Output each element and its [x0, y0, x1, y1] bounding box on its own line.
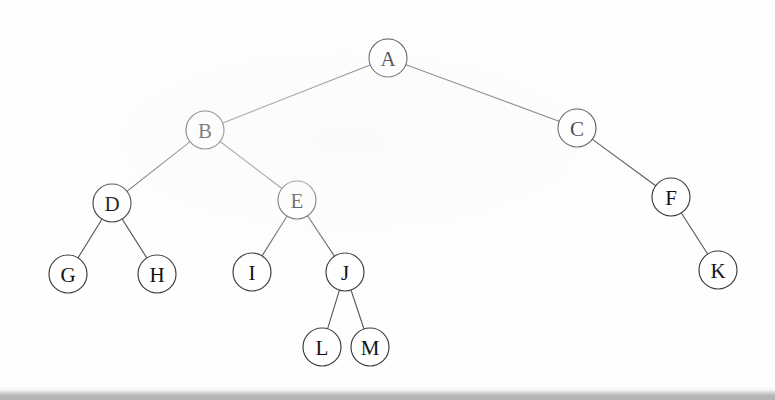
tree-edge-d-g [78, 219, 103, 259]
tree-node-i[interactable]: I [233, 253, 271, 291]
node-label-b: B [198, 119, 212, 143]
tree-canvas: ABCDEFGHIJKLM [0, 0, 775, 400]
tree-edge-e-i [262, 216, 287, 257]
tree-node-a[interactable]: A [369, 39, 407, 77]
tree-node-e[interactable]: E [278, 181, 316, 219]
node-label-h: H [149, 263, 164, 287]
tree-node-m[interactable]: M [351, 328, 389, 366]
edge-layer [78, 64, 708, 329]
node-label-i: I [249, 261, 256, 285]
node-label-e: E [291, 189, 304, 213]
tree-node-l[interactable]: L [303, 328, 341, 366]
tree-node-h[interactable]: H [138, 255, 176, 293]
tree-node-c[interactable]: C [558, 109, 596, 147]
node-label-k: K [710, 259, 725, 283]
tree-edge-f-k [681, 213, 708, 255]
tree-edge-e-j [307, 215, 334, 256]
tree-edge-j-l [327, 290, 339, 330]
tree-edge-a-c [405, 64, 559, 121]
tree-node-b[interactable]: B [186, 111, 224, 149]
node-label-m: M [361, 336, 380, 360]
node-label-a: A [380, 47, 396, 71]
tree-node-d[interactable]: D [93, 184, 131, 222]
node-layer: ABCDEFGHIJKLM [49, 39, 737, 366]
node-label-c: C [570, 117, 584, 141]
tree-diagram-figure: ABCDEFGHIJKLM [0, 0, 775, 400]
tree-node-j[interactable]: J [326, 253, 364, 291]
page-bottom-edge-line [0, 396, 775, 400]
tree-edge-j-m [351, 290, 364, 330]
tree-node-g[interactable]: G [49, 255, 87, 293]
tree-node-k[interactable]: K [699, 251, 737, 289]
tree-edge-c-f [592, 139, 656, 186]
node-label-l: L [316, 336, 329, 360]
tree-edge-a-b [222, 65, 371, 123]
tree-node-f[interactable]: F [652, 178, 690, 216]
node-label-j: J [341, 261, 349, 285]
tree-edge-b-e [220, 141, 283, 189]
tree-edge-b-d [127, 141, 191, 191]
tree-edge-d-h [122, 219, 147, 259]
node-label-g: G [60, 263, 75, 287]
node-label-f: F [665, 186, 677, 210]
node-label-d: D [104, 192, 119, 216]
